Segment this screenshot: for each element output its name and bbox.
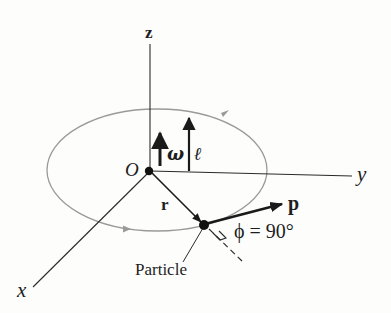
particle-label: Particle — [135, 261, 187, 278]
orbit-direction-arrow-top — [221, 110, 229, 117]
ell-label: ℓ — [194, 145, 202, 163]
origin-label: O — [125, 160, 139, 179]
orbit-direction-arrow-bottom — [123, 226, 131, 233]
angular-momentum-diagram: z y x O ω ℓ r p ϕ = 90° Particle — [0, 0, 391, 313]
r-arrow — [150, 171, 201, 222]
phi-angle-label: ϕ = 90° — [234, 221, 294, 241]
omega-label: ω — [167, 145, 184, 163]
x-axis-label: x — [17, 280, 26, 301]
z-axis-label: z — [145, 24, 153, 41]
axes — [33, 44, 352, 287]
y-axis — [150, 171, 352, 176]
origin-dot — [145, 167, 153, 175]
particle-dot — [199, 220, 209, 230]
orbit-ellipse — [47, 109, 267, 231]
p-label: p — [288, 193, 299, 213]
y-axis-label: y — [357, 164, 366, 185]
particle-leader-line — [183, 228, 203, 262]
r-label: r — [161, 196, 169, 213]
